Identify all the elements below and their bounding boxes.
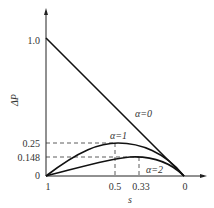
y-tick-0148: 0.148	[18, 152, 41, 163]
y-tick-025: 0.25	[23, 138, 41, 149]
x-tick-033: 0.33	[132, 181, 150, 192]
series-alpha-0	[46, 38, 184, 176]
x-tick-05: 0.5	[109, 181, 122, 192]
label-alpha-2: α=2	[146, 164, 163, 175]
y-axis-arrow-icon	[44, 8, 48, 15]
x-axis-arrow-icon	[200, 174, 207, 178]
x-axis-label: s	[128, 194, 132, 205]
y-tick-0: 0	[35, 170, 40, 181]
label-alpha-0: α=0	[135, 108, 152, 119]
x-tick-0: 0	[183, 181, 188, 192]
chart: 1.0 0.25 0.148 0 1 0.5 0.33 0 ΔP s α=0 α…	[0, 0, 214, 208]
y-tick-1: 1.0	[28, 35, 41, 46]
x-tick-1: 1	[46, 181, 51, 192]
label-alpha-1: α=1	[110, 130, 127, 141]
y-axis-label: ΔP	[9, 94, 20, 107]
